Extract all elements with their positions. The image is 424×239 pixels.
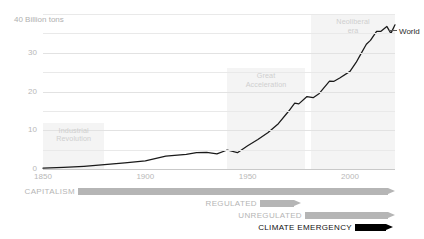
x-tick-1850: 1850 — [23, 172, 63, 181]
y-tick-30: 30 — [3, 48, 37, 57]
series-leader-line — [389, 30, 397, 31]
gridline-20 — [43, 92, 395, 93]
legend-row-capitalism: CAPITALISM — [0, 186, 424, 197]
legend-row-regulated: REGULATED — [0, 198, 424, 209]
timeline-legend: CAPITALISMREGULATEDUNREGULATEDCLIMATE EM… — [0, 185, 424, 239]
legend-bar-arrowhead-regulated — [294, 200, 301, 206]
legend-bar-shaft-unregulated — [305, 212, 388, 219]
chart-screenshot: 40 Billion tons IndustrialRevolutionGrea… — [0, 0, 424, 239]
legend-bar-arrowhead-climate-emergency — [386, 224, 393, 230]
world-emissions-line — [43, 25, 395, 168]
gridline-30 — [43, 53, 395, 54]
legend-bar-regulated — [260, 200, 301, 207]
gridline-minor-5 — [43, 150, 395, 151]
legend-bar-shaft-climate-emergency — [355, 224, 386, 231]
legend-bar-climate-emergency — [355, 224, 393, 231]
gridline-minor-40 — [43, 14, 395, 15]
y-tick-10: 10 — [3, 125, 37, 134]
gridline-minor-25 — [43, 72, 395, 73]
era-label-line2: Acceleration — [226, 81, 306, 90]
era-label-great-acceleration: GreatAcceleration — [226, 72, 306, 89]
legend-label-capitalism: CAPITALISM — [25, 186, 75, 197]
legend-row-unregulated: UNREGULATED — [0, 210, 424, 221]
era-label-line2: Revolution — [34, 135, 114, 144]
era-label-industrial-revolution: IndustrialRevolution — [34, 127, 114, 144]
legend-bar-unregulated — [305, 212, 395, 219]
series-label-world: World — [399, 27, 420, 36]
legend-bar-arrowhead-unregulated — [388, 212, 395, 218]
plot-area: IndustrialRevolutionGreatAccelerationNeo… — [43, 14, 395, 169]
legend-row-climate-emergency: CLIMATE EMERGENCY — [0, 222, 424, 233]
gridline-0 — [43, 169, 395, 170]
legend-bar-capitalism — [78, 188, 395, 195]
legend-bar-shaft-regulated — [260, 200, 294, 207]
era-label-line2: era — [313, 27, 393, 36]
gridline-minor-15 — [43, 111, 395, 112]
legend-label-climate-emergency: CLIMATE EMERGENCY — [258, 222, 352, 233]
x-tick-2000: 2000 — [330, 172, 370, 181]
legend-bar-shaft-capitalism — [78, 188, 388, 195]
x-tick-1950: 1950 — [228, 172, 268, 181]
legend-bar-arrowhead-capitalism — [388, 188, 395, 194]
legend-label-unregulated: UNREGULATED — [238, 210, 302, 221]
legend-label-regulated: REGULATED — [206, 198, 257, 209]
y-tick-20: 20 — [3, 87, 37, 96]
era-label-neoliberal-era: Neoliberalera — [313, 18, 393, 35]
x-tick-1900: 1900 — [125, 172, 165, 181]
